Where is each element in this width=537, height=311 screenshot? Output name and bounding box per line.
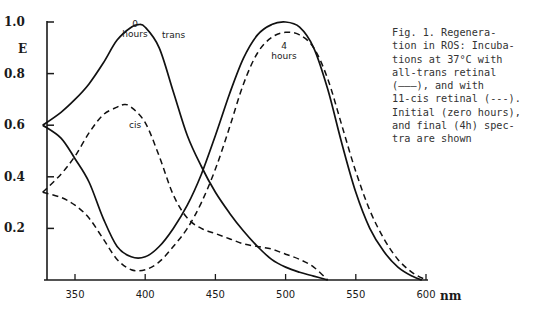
annotation-4h: 4hours [271, 41, 297, 61]
series-line-3 [43, 32, 426, 280]
figure-caption: Fig. 1. Regenera- tion in ROS: Incuba- t… [392, 26, 537, 146]
y-tick-label: 0.4 [4, 170, 25, 184]
x-axis-label: nm [440, 289, 462, 303]
x-tick-label: 500 [276, 289, 295, 300]
annotation-0: 0hours [122, 19, 148, 39]
series-line-0 [43, 24, 328, 280]
x-tick-label: 400 [136, 289, 155, 300]
x-tick-label: 350 [65, 289, 84, 300]
y-tick-label: 0.6 [4, 118, 25, 132]
x-tick-label: 600 [416, 289, 435, 300]
y-axis-label: E [18, 42, 27, 56]
y-tick-label: 0.2 [4, 221, 25, 235]
x-ticks: 350400450500550600 [65, 274, 435, 300]
y-tick-label: 0.8 [4, 67, 25, 81]
series-line-2 [43, 22, 422, 280]
annotation-cis: cis [129, 120, 141, 130]
y-tick-label: 1.0 [4, 15, 25, 29]
annotations: 0hours trans cis 4hours [122, 19, 297, 130]
x-tick-label: 450 [206, 289, 225, 300]
x-tick-label: 550 [346, 289, 365, 300]
series-group [43, 22, 426, 280]
annotation-trans: trans [162, 30, 185, 40]
